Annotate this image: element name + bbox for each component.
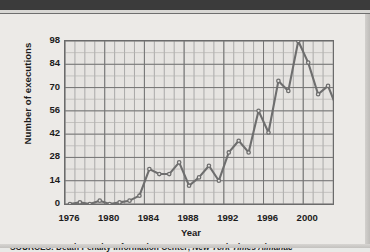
x-tick-label: 1996 (247, 212, 287, 223)
chart-panel: Number of executions 014284256708498 197… (0, 14, 370, 248)
panel-bottom-shadow (0, 244, 370, 248)
x-tick-label: 1992 (208, 212, 248, 223)
x-tick-label: 1976 (49, 212, 89, 223)
header-bar (0, 0, 370, 10)
x-tick-label: 1988 (168, 212, 208, 223)
y-tick-label: 56 (30, 105, 60, 115)
x-axis-label: Year (6, 227, 370, 238)
y-tick-label: 28 (30, 151, 60, 161)
y-tick-label: 84 (30, 58, 60, 68)
panel-right-shadow (365, 14, 370, 248)
y-tick-label: 14 (30, 175, 60, 185)
y-tick-label: 42 (30, 128, 60, 138)
line-chart-svg (65, 41, 333, 204)
y-tick-label: 98 (30, 35, 60, 45)
x-tick-label: 1980 (89, 212, 129, 223)
x-tick-label: 2000 (287, 212, 327, 223)
y-axis-tick-labels: 014284256708498 (28, 16, 60, 216)
plot-area (64, 40, 334, 205)
y-tick-label: 70 (30, 82, 60, 92)
x-tick-label: 1984 (128, 212, 168, 223)
chart-plot-area-wrapper: Number of executions 014284256708498 197… (6, 16, 364, 230)
y-tick-label: 0 (30, 198, 60, 208)
